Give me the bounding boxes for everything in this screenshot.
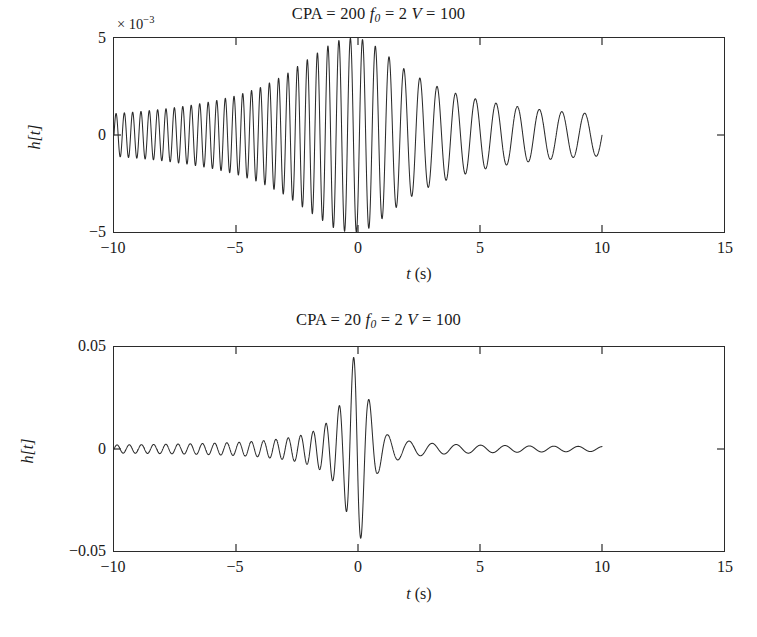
title-cpa-label: CPA [296, 310, 326, 329]
title-eq2: = [376, 310, 394, 329]
plot-title-top: CPA = 200 f0 = 2 V = 100 [0, 4, 757, 24]
x-tick-top-4: 10 [572, 239, 632, 257]
title-cpa-value: 200 [340, 4, 365, 23]
x-tick-top-2: 0 [328, 239, 388, 257]
signal-trace-bottom [114, 357, 602, 538]
title-f-value: 2 [395, 310, 403, 329]
x-axis-label-unit-bottom: (s) [415, 585, 432, 602]
y-axis-label-top: h[t] [26, 114, 44, 160]
plot-title-bottom: CPA = 20 f0 = 2 V = 100 [0, 310, 757, 330]
y-axis-label-bottom: h[t] [19, 428, 37, 474]
y-axis-exponent-label-top: × 10−3 [117, 14, 154, 33]
x-axis-label-top: t (s) [379, 265, 459, 283]
y-tick-bottom-1: 0 [40, 440, 106, 458]
plot-area-bottom [113, 346, 725, 552]
x-tick-bottom-1: −5 [205, 558, 265, 576]
x-axis-label-unit-top: (s) [415, 265, 432, 282]
title-cpa-value: 20 [344, 310, 361, 329]
x-tick-marks-top [236, 38, 602, 232]
title-v-value: 100 [440, 4, 465, 23]
x-tick-bottom-2: 0 [328, 558, 388, 576]
chart-panel-top: CPA = 200 f0 = 2 V = 100 × 10−3 5 0 −5 h… [0, 0, 757, 318]
title-eq1: = [326, 310, 344, 329]
title-cpa-label: CPA [292, 4, 322, 23]
x-tick-bottom-5: 15 [695, 558, 755, 576]
title-eq3: = [422, 4, 440, 23]
x-axis-label-bottom: t (s) [379, 585, 459, 603]
figure-container: CPA = 200 f0 = 2 V = 100 × 10−3 5 0 −5 h… [0, 0, 757, 637]
x-axis-label-var-bottom: t [406, 585, 410, 602]
plot-svg-bottom [114, 347, 724, 551]
title-eq2: = [381, 4, 399, 23]
x-tick-top-5: 15 [695, 239, 755, 257]
x-axis-label-var-top: t [406, 265, 410, 282]
plot-svg-top [114, 38, 724, 232]
x-tick-top-3: 5 [450, 239, 510, 257]
title-v-label: V [407, 310, 417, 329]
title-f-value: 2 [399, 4, 407, 23]
y-tick-top-0: 5 [72, 29, 106, 47]
y-tick-bottom-0: 0.05 [40, 337, 106, 355]
title-v-label: V [412, 4, 422, 23]
exponent-power: −3 [143, 14, 154, 25]
plot-area-top [113, 37, 725, 233]
exponent-mantissa: × 10 [117, 16, 143, 32]
y-tick-top-1: 0 [72, 126, 106, 144]
x-tick-bottom-0: −10 [83, 558, 143, 576]
signal-trace-top [114, 38, 602, 232]
x-tick-bottom-3: 5 [450, 558, 510, 576]
x-tick-top-0: −10 [83, 239, 143, 257]
title-eq3: = [418, 310, 436, 329]
title-eq1: = [322, 4, 340, 23]
x-tick-bottom-4: 10 [572, 558, 632, 576]
x-tick-top-1: −5 [205, 239, 265, 257]
title-v-value: 100 [436, 310, 461, 329]
chart-panel-bottom: CPA = 20 f0 = 2 V = 100 0.05 0 −0.05 h[t… [0, 300, 757, 637]
